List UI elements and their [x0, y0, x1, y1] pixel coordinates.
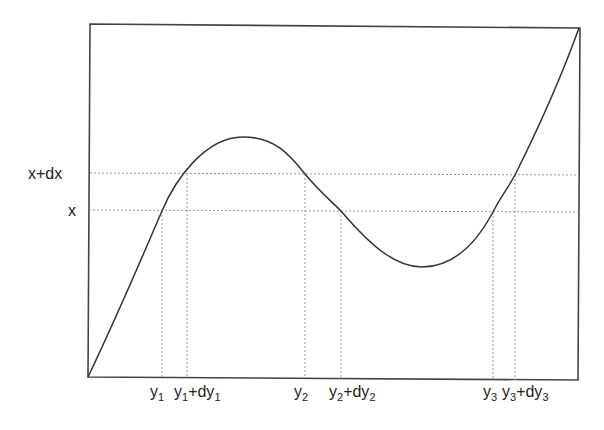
label-y2: y2 — [294, 383, 308, 403]
label-y1: y1 — [150, 383, 164, 403]
guide-line-x-plus-dx — [90, 173, 579, 175]
label-x-plus-dx: x+dx — [28, 165, 62, 182]
function-diagram: x+dx x y1 y1+dy1 y2 y2+dy2 y3 y3+dy3 — [0, 0, 604, 430]
label-y1-plus-dy1: y1+dy1 — [174, 383, 221, 403]
label-y3-plus-dy3: y3+dy3 — [502, 383, 549, 403]
plot-frame — [88, 24, 580, 380]
label-x: x — [68, 202, 76, 219]
label-y3: y3 — [483, 383, 497, 403]
label-y2-plus-dy2: y2+dy2 — [329, 383, 376, 403]
